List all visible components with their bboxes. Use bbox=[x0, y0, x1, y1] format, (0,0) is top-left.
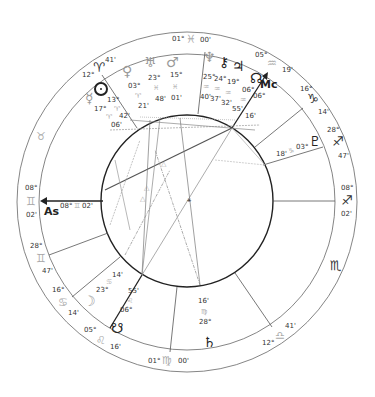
svg-text:00': 00' bbox=[178, 357, 189, 365]
svg-text:♈: ♈ bbox=[135, 92, 141, 100]
aspect-lines bbox=[105, 117, 265, 285]
svg-text:06°: 06° bbox=[253, 92, 265, 100]
svg-text:⚹: ⚹ bbox=[187, 196, 192, 204]
svg-text:♐: ♐ bbox=[332, 134, 344, 149]
svg-text:♊: ♊ bbox=[26, 195, 36, 208]
pluto-icon: ♇ bbox=[309, 133, 322, 149]
svg-text:19': 19' bbox=[282, 66, 293, 74]
svg-text:♑: ♑ bbox=[307, 91, 319, 106]
svg-text:02': 02' bbox=[341, 210, 352, 218]
svg-text:06°: 06° bbox=[120, 306, 132, 314]
svg-text:♊: ♊ bbox=[74, 202, 80, 210]
svg-text:37': 37' bbox=[210, 95, 221, 103]
svg-text:△: △ bbox=[161, 160, 167, 168]
mars-icon: ♂ bbox=[166, 54, 179, 70]
svg-text:28°: 28° bbox=[199, 318, 211, 326]
svg-text:02': 02' bbox=[82, 202, 93, 210]
svg-text:♌: ♌ bbox=[127, 297, 133, 305]
svg-text:32': 32' bbox=[221, 99, 232, 107]
svg-text:♒: ♒ bbox=[240, 96, 246, 104]
svg-text:21': 21' bbox=[138, 102, 149, 110]
svg-text:02': 02' bbox=[26, 211, 37, 219]
asc-arrow-icon bbox=[40, 197, 47, 205]
svg-text:24°: 24° bbox=[214, 75, 226, 83]
planets: 13° ♈ 42' ☿ 17° ♈ 06' ♀ 03° ♈ 21' ♅ 23° … bbox=[83, 49, 322, 350]
svg-text:17°: 17° bbox=[94, 105, 106, 113]
svg-text:♓: ♓ bbox=[153, 84, 159, 92]
svg-text:28°: 28° bbox=[327, 126, 339, 134]
asc-label: As bbox=[44, 205, 60, 218]
svg-text:14': 14' bbox=[318, 108, 329, 116]
svg-text:03°: 03° bbox=[296, 143, 308, 151]
chart-wheel: △ △ △ ⚹ 01° ♓ 00' 05° ♒ 19' 16° ♑ 14' 28… bbox=[0, 0, 375, 397]
saturn-icon: ♄ bbox=[203, 334, 216, 350]
svg-text:05°: 05° bbox=[255, 51, 267, 59]
south-node-icon: ☋ bbox=[111, 320, 123, 336]
svg-text:♏: ♏ bbox=[330, 258, 342, 273]
svg-text:14': 14' bbox=[112, 271, 123, 279]
svg-text:♒: ♒ bbox=[225, 89, 231, 97]
jupiter-icon: ♃ bbox=[232, 58, 245, 74]
svg-text:42': 42' bbox=[119, 112, 130, 120]
svg-text:05°: 05° bbox=[84, 326, 96, 334]
svg-text:♋: ♋ bbox=[58, 296, 68, 309]
svg-text:47': 47' bbox=[42, 267, 53, 275]
svg-text:△: △ bbox=[144, 184, 150, 192]
svg-text:♒: ♒ bbox=[214, 85, 220, 93]
mercury-icon: ☿ bbox=[85, 90, 94, 106]
svg-text:06': 06' bbox=[111, 121, 122, 129]
svg-text:♍: ♍ bbox=[162, 354, 172, 367]
moon-icon: ☽ bbox=[83, 293, 96, 309]
svg-text:♈: ♈ bbox=[106, 113, 112, 121]
svg-text:23°: 23° bbox=[148, 74, 160, 82]
svg-text:16': 16' bbox=[245, 112, 256, 120]
svg-text:♌: ♌ bbox=[96, 334, 106, 347]
venus-icon: ♀ bbox=[122, 63, 132, 79]
neptune-icon: ♆ bbox=[203, 49, 216, 65]
svg-text:47': 47' bbox=[338, 152, 349, 160]
svg-text:♍: ♍ bbox=[201, 308, 207, 316]
svg-text:03°: 03° bbox=[128, 82, 140, 90]
svg-text:00': 00' bbox=[200, 36, 211, 44]
svg-text:♒: ♒ bbox=[267, 57, 277, 70]
svg-text:12°: 12° bbox=[262, 339, 274, 347]
svg-text:55': 55' bbox=[128, 287, 139, 295]
svg-text:16': 16' bbox=[110, 343, 121, 351]
svg-text:55': 55' bbox=[232, 105, 243, 113]
svg-text:16': 16' bbox=[198, 297, 209, 305]
svg-text:19°: 19° bbox=[227, 78, 239, 86]
svg-text:41': 41' bbox=[285, 322, 296, 330]
svg-text:♑: ♑ bbox=[288, 147, 294, 155]
svg-text:♋: ♋ bbox=[106, 278, 112, 286]
svg-text:01°: 01° bbox=[172, 35, 184, 43]
svg-text:♊: ♊ bbox=[36, 252, 46, 265]
svg-text:△: △ bbox=[140, 195, 146, 203]
svg-text:15°: 15° bbox=[170, 71, 182, 79]
svg-text:♓: ♓ bbox=[172, 83, 178, 91]
svg-text:18': 18' bbox=[276, 150, 287, 158]
svg-text:41': 41' bbox=[105, 56, 116, 64]
svg-text:16°: 16° bbox=[52, 286, 64, 294]
svg-text:08°: 08° bbox=[25, 184, 37, 192]
svg-text:08°: 08° bbox=[60, 202, 72, 210]
svg-text:♓: ♓ bbox=[186, 33, 196, 46]
svg-text:♒: ♒ bbox=[203, 83, 209, 91]
chiron-icon: ⚷ bbox=[219, 54, 229, 70]
svg-text:♎: ♎ bbox=[275, 329, 285, 342]
svg-text:♐: ♐ bbox=[341, 193, 353, 208]
svg-text:08°: 08° bbox=[341, 184, 353, 192]
uranus-icon: ♅ bbox=[144, 54, 157, 70]
svg-text:23°: 23° bbox=[96, 286, 108, 294]
svg-text:♉: ♉ bbox=[36, 130, 46, 143]
svg-text:01°: 01° bbox=[148, 357, 160, 365]
svg-text:13°: 13° bbox=[107, 96, 119, 104]
svg-text:♈: ♈ bbox=[93, 60, 105, 75]
svg-text:01': 01' bbox=[171, 94, 182, 102]
svg-text:14': 14' bbox=[68, 309, 79, 317]
svg-text:48': 48' bbox=[155, 95, 166, 103]
mc-label: Mc bbox=[260, 78, 277, 91]
svg-text:28°: 28° bbox=[30, 242, 42, 250]
